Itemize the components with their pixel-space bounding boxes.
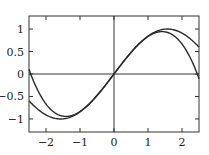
y-tick-label: 0.5 [7, 46, 25, 59]
line-chart: −2−1012 10.50−0.5−1 [0, 0, 209, 155]
y-tick-label: 1 [17, 23, 24, 36]
y-tick-label: −0.5 [0, 90, 24, 103]
x-tick-label: 2 [179, 136, 186, 149]
y-tick-label: 0 [17, 68, 24, 81]
x-tick-label: 1 [145, 136, 152, 149]
x-tick-label: 0 [111, 136, 118, 149]
y-tick-label: −1 [8, 113, 24, 126]
x-tick-label: −1 [72, 136, 88, 149]
x-axis-ticks: −2−1012 [38, 16, 186, 149]
x-tick-label: −2 [38, 136, 54, 149]
